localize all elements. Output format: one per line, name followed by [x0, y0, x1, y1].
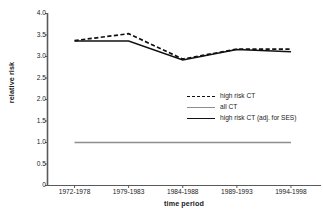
- legend-item-label: high risk CT (adj. for SES): [220, 115, 296, 122]
- legend-item-high-risk-ct: high risk CT: [187, 91, 323, 102]
- legend-item-all-ct: all CT: [187, 102, 323, 113]
- legend-dashed-line-icon: [187, 93, 215, 101]
- legend-black-line-icon: [187, 115, 215, 123]
- y-axis-tick-label: 2.5: [20, 75, 46, 82]
- relative-risk-line-chart: 00.51.01.52.02.53.03.54.0 1972-19781979-…: [0, 0, 323, 220]
- y-axis-tick-label: 1.0: [20, 139, 46, 146]
- legend-item-label: all CT: [220, 104, 237, 111]
- x-axis-title: time period: [45, 199, 323, 208]
- y-axis-tick-label: 4.0: [20, 10, 46, 17]
- series-line-0: [75, 34, 291, 59]
- x-axis-tick-label: 1994-1998: [259, 189, 323, 196]
- series-line-2: [75, 41, 291, 60]
- y-axis-title: relative risk: [7, 48, 16, 118]
- data-series-layer: [75, 34, 291, 143]
- legend-item-high-risk-ct-adj-ses: high risk CT (adj. for SES): [187, 113, 323, 124]
- y-axis-tick-label: 0.5: [20, 161, 46, 168]
- y-axis-tick-label: 1.5: [20, 118, 46, 125]
- y-axis-tick-label: 2.0: [20, 96, 46, 103]
- y-axis-tick-labels: 00.51.01.52.02.53.03.54.0: [14, 0, 46, 220]
- y-axis-tick-label: 3.0: [20, 53, 46, 60]
- y-axis-tick-label: 3.5: [20, 32, 46, 39]
- y-axis-tick-label: 0: [20, 182, 46, 189]
- legend-item-label: high risk CT: [220, 93, 255, 100]
- chart-legend: high risk CT all CT high risk CT (adj. f…: [187, 91, 323, 124]
- legend-gray-line-icon: [187, 104, 215, 112]
